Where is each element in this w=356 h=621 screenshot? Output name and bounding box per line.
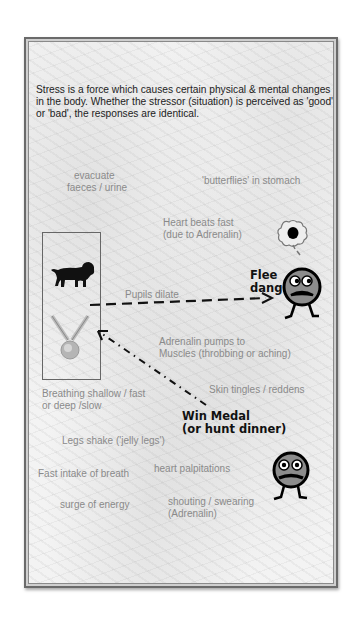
scared-face-icon (279, 266, 325, 328)
thought-bubble-icon (276, 219, 310, 257)
marble-frame: Stress is a force which causes certain p… (24, 37, 338, 588)
worried-face-icon (270, 449, 312, 511)
